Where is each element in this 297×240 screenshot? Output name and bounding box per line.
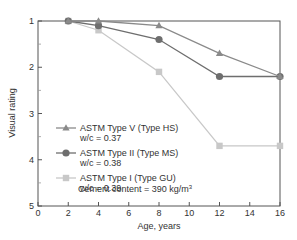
legend: ASTM Type V (Type HS)w/c = 0.37ASTM Type…: [56, 123, 178, 193]
legend-item: ASTM Type V (Type HS)w/c = 0.37: [56, 123, 178, 143]
svg-text:ASTM Type I (Type GU): ASTM Type I (Type GU): [80, 173, 176, 183]
svg-text:w/c = 0.37: w/c = 0.37: [79, 133, 121, 143]
y-tick-label: 3: [29, 109, 34, 119]
legend-item: ASTM Type II (Type MS)w/c = 0.38: [56, 148, 178, 168]
y-axis-label: Visual rating: [7, 88, 17, 137]
cement-content-annotation: Cement content = 390 kg/m3: [78, 184, 193, 194]
x-tick-label: 6: [126, 208, 131, 218]
x-tick-label: 8: [156, 208, 161, 218]
x-tick-label: 0: [35, 208, 40, 218]
y-tick-label: 4: [29, 155, 34, 165]
y-tick-label: 2: [29, 62, 34, 72]
svg-text:ASTM Type II (Type MS): ASTM Type II (Type MS): [80, 148, 178, 158]
x-axis-label: Age, years: [137, 221, 181, 231]
y-tick-label: 5: [29, 201, 34, 211]
x-tick-label: 4: [96, 208, 101, 218]
x-tick-label: 10: [184, 208, 194, 218]
x-tick-label: 12: [214, 208, 224, 218]
series-circle: [65, 17, 284, 80]
svg-text:w/c = 0.38: w/c = 0.38: [79, 158, 121, 168]
x-tick-label: 2: [66, 208, 71, 218]
chart: 024681012141612345 ASTM Type V (Type HS)…: [0, 0, 297, 240]
y-tick-label: 1: [29, 16, 34, 26]
x-tick-label: 14: [245, 208, 255, 218]
svg-text:ASTM Type V (Type HS): ASTM Type V (Type HS): [80, 123, 178, 133]
x-tick-label: 16: [275, 208, 285, 218]
